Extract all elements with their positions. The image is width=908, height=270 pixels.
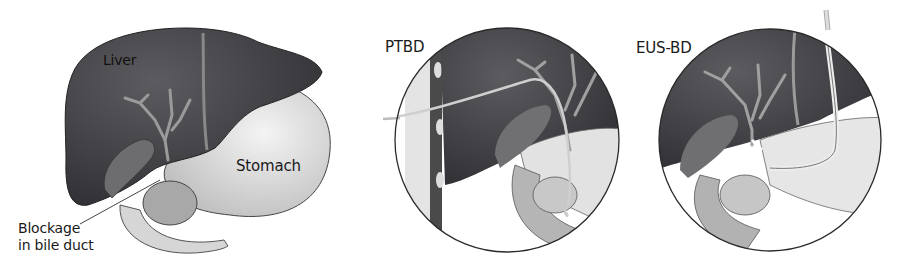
stomach-label: Stomach <box>236 158 301 175</box>
blockage-label: Blockage in bile duct <box>18 220 118 254</box>
liver-label: Liver <box>103 52 136 69</box>
illustration <box>0 0 908 270</box>
blockage-label-line2: in bile duct <box>18 237 118 254</box>
body-wall <box>405 30 433 260</box>
ptbd-title: PTBD <box>385 39 424 56</box>
ptbd-panel <box>383 28 625 260</box>
pancreas-head <box>143 181 197 225</box>
figure: Liver Stomach Blockage in bile duct PTBD… <box>0 0 908 270</box>
eusbd-title: EUS-BD <box>636 40 692 57</box>
blockage-label-line1: Blockage <box>18 220 118 237</box>
